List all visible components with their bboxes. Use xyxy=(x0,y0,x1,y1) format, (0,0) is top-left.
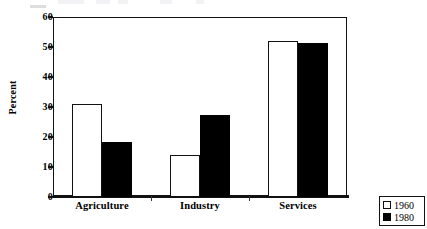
bar-industry-1980 xyxy=(200,115,230,198)
y-axis-label: Percent xyxy=(7,68,18,128)
x-axis-category-label: Agriculture xyxy=(53,200,151,212)
x-axis-category-label: Industry xyxy=(151,200,249,212)
filled-square-icon xyxy=(383,213,391,221)
legend-label: 1960 xyxy=(394,200,414,211)
chart-figure: Percent 6050403020100 AgricultureIndustr… xyxy=(0,0,427,229)
bar-industry-1960 xyxy=(170,155,200,197)
y-axis-tick-mark xyxy=(48,46,53,47)
y-axis-tick-mark xyxy=(48,166,53,167)
bar-agriculture-1960 xyxy=(72,104,102,197)
legend-item: 1980 xyxy=(383,211,424,223)
y-axis-tick-mark xyxy=(48,16,53,17)
legend-item: 1960 xyxy=(383,199,424,211)
y-axis-tick-mark xyxy=(48,106,53,107)
legend: 19601980 xyxy=(379,196,425,226)
y-axis-tick-mark xyxy=(48,76,53,77)
bar-services-1980 xyxy=(298,43,328,198)
y-axis-tick-mark xyxy=(48,136,53,137)
x-axis-category-label: Services xyxy=(249,200,347,212)
y-axis-tick-mark xyxy=(48,196,53,197)
legend-label: 1980 xyxy=(394,212,414,223)
bar-services-1960 xyxy=(268,41,298,197)
y-axis: 6050403020100 xyxy=(20,0,53,229)
open-square-icon xyxy=(383,201,391,209)
bar-agriculture-1980 xyxy=(102,142,132,198)
